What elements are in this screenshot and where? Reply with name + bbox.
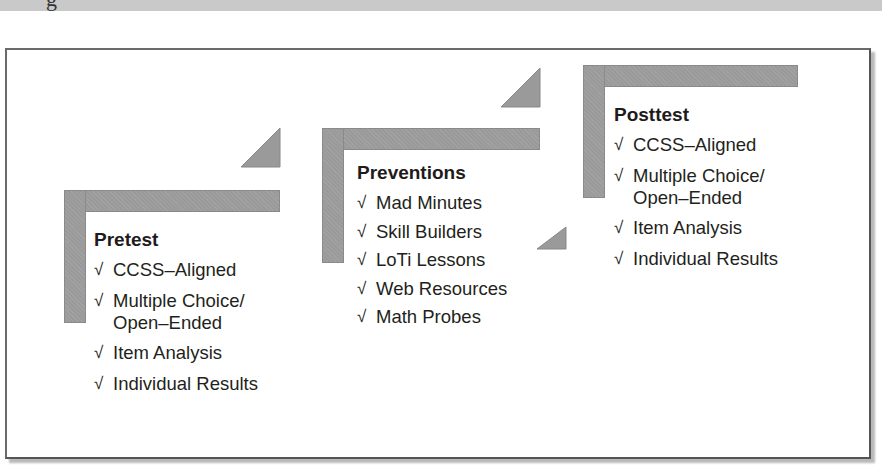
- checkmark-icon: √: [614, 165, 633, 187]
- checkmark-icon: √: [94, 290, 113, 312]
- list-item: √LoTi Lessons: [357, 249, 507, 271]
- stage-item-list: √CCSS–Aligned √Multiple Choice/ Open–End…: [94, 259, 258, 395]
- checkmark-icon: √: [94, 342, 113, 364]
- checkmark-icon: √: [357, 192, 376, 214]
- checkmark-icon: √: [614, 248, 633, 270]
- list-item: √Skill Builders: [357, 221, 507, 243]
- list-item: √Mad Minutes: [357, 192, 507, 214]
- list-item: √Individual Results: [614, 248, 778, 270]
- checkmark-icon: √: [614, 134, 633, 156]
- list-item: √Item Analysis: [614, 217, 778, 239]
- list-item: √Multiple Choice/ Open–Ended: [94, 290, 258, 334]
- checkmark-icon: √: [614, 217, 633, 239]
- list-item: √Item Analysis: [94, 342, 258, 364]
- checkmark-icon: √: [357, 249, 376, 271]
- checkmark-icon: √: [94, 259, 113, 281]
- stage-pretest: Pretest √CCSS–Aligned √Multiple Choice/ …: [94, 229, 258, 403]
- step-arrow-icon: [240, 127, 282, 169]
- header-band: g: [0, 0, 882, 11]
- stage-posttest: Posttest √CCSS–Aligned √Multiple Choice/…: [614, 104, 778, 278]
- list-item: √CCSS–Aligned: [614, 134, 778, 156]
- stage-preventions: Preventions √Mad Minutes √Skill Builders…: [357, 162, 507, 335]
- preventions-bracket-top: [322, 128, 540, 150]
- pretest-bracket-top: [64, 190, 280, 212]
- header-cut-text: g: [46, 0, 57, 11]
- stage-title: Posttest: [614, 104, 778, 126]
- list-item: √Multiple Choice/ Open–Ended: [614, 165, 778, 209]
- stage-item-list: √Mad Minutes √Skill Builders √LoTi Lesso…: [357, 192, 507, 328]
- stage-item-list: √CCSS–Aligned √Multiple Choice/ Open–End…: [614, 134, 778, 270]
- stage-title: Pretest: [94, 229, 258, 251]
- preventions-bracket-side: [322, 128, 344, 263]
- list-item: √CCSS–Aligned: [94, 259, 258, 281]
- checkmark-icon: √: [357, 278, 376, 300]
- step-arrow-icon: [536, 226, 568, 251]
- posttest-bracket-side: [583, 65, 605, 198]
- pretest-bracket-side: [64, 190, 86, 323]
- checkmark-icon: √: [94, 373, 113, 395]
- list-item: √Web Resources: [357, 278, 507, 300]
- list-item: √Individual Results: [94, 373, 258, 395]
- step-arrow-icon: [500, 67, 542, 109]
- posttest-bracket-top: [583, 65, 798, 87]
- checkmark-icon: √: [357, 221, 376, 243]
- checkmark-icon: √: [357, 306, 376, 328]
- list-item: √Math Probes: [357, 306, 507, 328]
- stage-title: Preventions: [357, 162, 507, 184]
